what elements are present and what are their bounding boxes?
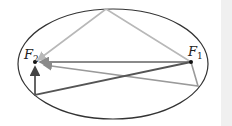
focus-f1-label: F1 [187,44,203,61]
focus-f1-dot [189,60,193,64]
ellipse-diagram: F2 F1 [0,0,232,126]
focus-f2-label: F2 [23,47,39,64]
light-ray-top [38,9,191,62]
